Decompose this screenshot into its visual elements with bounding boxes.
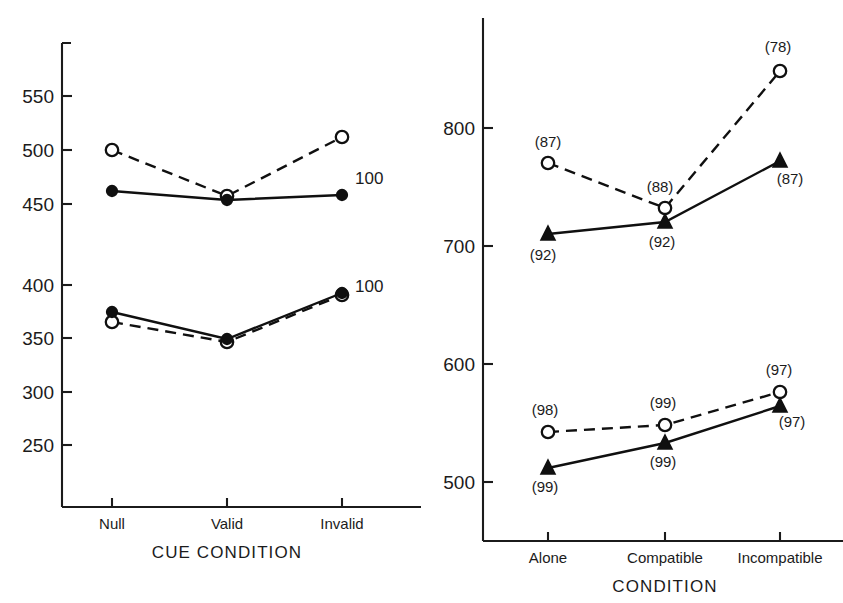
right-point-label: (92)	[530, 246, 557, 263]
left-ytick-250: 250	[22, 435, 54, 456]
left-y-ticks	[62, 96, 72, 445]
left-upper-series-label: 100	[355, 169, 383, 188]
left-upper-solid-point	[337, 190, 347, 200]
right-ytick-700: 700	[443, 236, 475, 257]
left-lower-solid-point	[222, 334, 232, 344]
right-x-ticks	[548, 532, 780, 541]
left-lower-solid-point	[107, 307, 117, 317]
right-chart-panel: 800 700 600 500 Alone Compatible Incompa…	[421, 0, 843, 603]
right-point-label: (88)	[647, 178, 674, 195]
left-ytick-500: 500	[22, 140, 54, 161]
right-point-label: (99)	[532, 478, 559, 495]
figure-two-panel-line-charts: 550 500 450 400 350 300 250 Null Valid I…	[0, 0, 843, 603]
left-xcat-null: Null	[99, 515, 125, 532]
right-upper-dashed-point	[774, 65, 786, 77]
left-ytick-400: 400	[22, 275, 54, 296]
right-upper-dashed-point	[542, 157, 554, 169]
right-point-label: (97)	[779, 413, 806, 430]
left-ytick-550: 550	[22, 86, 54, 107]
left-axis-title: CUE CONDITION	[152, 543, 302, 562]
left-lower-solid-line	[112, 293, 342, 339]
left-xcat-invalid: Invalid	[320, 515, 363, 532]
right-ytick-800: 800	[443, 118, 475, 139]
right-upper-solid-point	[773, 153, 787, 167]
right-y-ticks	[483, 128, 493, 482]
left-lower-series-label: 100	[355, 277, 383, 296]
right-ytick-500: 500	[443, 472, 475, 493]
right-lower-dashed-point	[659, 419, 671, 431]
right-lower-dashed-point	[542, 426, 554, 438]
right-point-label: (92)	[649, 233, 676, 250]
right-upper-solid-point	[658, 214, 672, 228]
right-point-label: (87)	[535, 133, 562, 150]
left-chart-panel: 550 500 450 400 350 300 250 Null Valid I…	[0, 0, 421, 603]
right-ytick-600: 600	[443, 354, 475, 375]
right-point-label: (99)	[650, 453, 677, 470]
left-ytick-350: 350	[22, 328, 54, 349]
right-point-label: (97)	[766, 361, 793, 378]
left-xcat-valid: Valid	[211, 515, 243, 532]
left-ytick-300: 300	[22, 382, 54, 403]
right-lower-solid-point	[773, 398, 787, 412]
right-xcat-alone: Alone	[529, 549, 567, 566]
left-upper-dashed-point	[336, 131, 348, 143]
right-xcat-compatible: Compatible	[627, 549, 703, 566]
left-upper-solid-point	[107, 186, 117, 196]
right-point-label: (87)	[777, 170, 804, 187]
left-ytick-450: 450	[22, 194, 54, 215]
right-xcat-incompatible: Incompatible	[737, 549, 822, 566]
right-point-label: (98)	[532, 401, 559, 418]
left-chart-svg: 550 500 450 400 350 300 250 Null Valid I…	[0, 0, 421, 603]
right-point-label: (99)	[650, 394, 677, 411]
left-upper-solid-point	[222, 195, 232, 205]
left-upper-dashed-line	[112, 137, 342, 196]
right-axis-title: CONDITION	[612, 577, 717, 596]
left-y-axis	[62, 43, 71, 507]
left-upper-dashed-point	[106, 144, 118, 156]
left-x-ticks	[112, 498, 342, 507]
left-lower-solid-point	[337, 288, 347, 298]
right-chart-svg: 800 700 600 500 Alone Compatible Incompa…	[421, 0, 843, 603]
right-point-label: (78)	[765, 38, 792, 55]
